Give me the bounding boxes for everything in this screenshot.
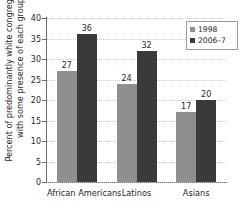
category-label-african-americans: African Americans bbox=[47, 188, 107, 198]
legend-swatch-1998-icon bbox=[190, 27, 195, 32]
y-axis-tick-label: 25 bbox=[1, 75, 41, 84]
bar-chart: Percent of predominantly white congregat… bbox=[0, 0, 247, 219]
bar-african-americans-20067 bbox=[77, 34, 97, 182]
bar-value-label: 36 bbox=[72, 24, 102, 33]
y-axis-tick-label: 20 bbox=[1, 96, 41, 105]
y-axis-tick-mark bbox=[42, 141, 47, 142]
legend-item-1998: 1998 bbox=[190, 24, 234, 35]
bar-asians-1998 bbox=[176, 112, 196, 182]
gridline bbox=[47, 182, 226, 183]
y-axis-tick-mark bbox=[42, 100, 47, 101]
bar-latinos-1998 bbox=[117, 84, 137, 182]
y-axis-tick-label: 40 bbox=[1, 14, 41, 23]
y-axis-tick-mark bbox=[42, 80, 47, 81]
y-axis-tick-mark bbox=[42, 162, 47, 163]
category-label-latinos: Latinos bbox=[107, 188, 167, 198]
y-axis-tick-mark bbox=[42, 59, 47, 60]
bar-value-label: 20 bbox=[191, 90, 221, 99]
y-axis-tick-label: 35 bbox=[1, 34, 41, 43]
y-axis-tick-mark bbox=[42, 18, 47, 19]
y-axis-tick-mark bbox=[42, 182, 47, 183]
y-axis-tick-label: 0 bbox=[1, 178, 41, 187]
y-axis-tick-label: 10 bbox=[1, 137, 41, 146]
bar-african-americans-1998 bbox=[57, 71, 77, 182]
bar-group-latinos: 2432 bbox=[117, 18, 157, 182]
legend-swatch-2006-7-icon bbox=[190, 38, 195, 43]
y-axis-tick-labels: 0510152025303540 bbox=[0, 0, 41, 219]
legend: 1998 2006–7 bbox=[186, 21, 238, 50]
legend-label-2006-7: 2006–7 bbox=[198, 36, 226, 45]
bar-latinos-20067 bbox=[137, 51, 157, 182]
legend-item-2006-7: 2006–7 bbox=[190, 35, 234, 46]
x-axis-category-labels: African AmericansLatinosAsians bbox=[47, 188, 226, 204]
y-axis-tick-label: 30 bbox=[1, 55, 41, 64]
y-axis-tick-mark bbox=[42, 39, 47, 40]
y-axis-tick-label: 15 bbox=[1, 116, 41, 125]
y-axis-tick-label: 5 bbox=[1, 157, 41, 166]
bar-group-african-americans: 2736 bbox=[57, 18, 97, 182]
bar-asians-20067 bbox=[196, 100, 216, 182]
bar-value-label: 32 bbox=[132, 41, 162, 50]
legend-label-1998: 1998 bbox=[198, 25, 217, 34]
category-label-asians: Asians bbox=[166, 188, 226, 198]
y-axis-tick-mark bbox=[42, 121, 47, 122]
